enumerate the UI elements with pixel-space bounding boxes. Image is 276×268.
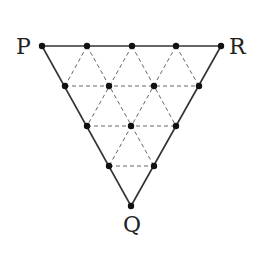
lattice-point [151,163,157,169]
point-Q [128,203,134,209]
lattice-point [196,83,202,89]
point-R [218,43,224,49]
lattice-point [106,163,112,169]
lattice-points [39,43,224,209]
lattice-point [62,83,68,89]
lattice-point [129,43,135,49]
lattice-point [128,123,134,129]
label-Q: Q [123,212,141,237]
label-R: R [229,34,247,59]
point-P [39,43,45,49]
lattice-point [151,83,157,89]
dashed-diagonals-down-right [87,46,199,166]
triangle-lattice-diagram: P R Q [0,0,276,268]
lattice-point [84,123,90,129]
lattice-point [106,83,112,89]
dashed-diagonals-down-left [65,46,176,166]
lattice-point [173,123,179,129]
lattice-point [173,43,179,49]
label-P: P [16,34,31,59]
lattice-point [84,43,90,49]
